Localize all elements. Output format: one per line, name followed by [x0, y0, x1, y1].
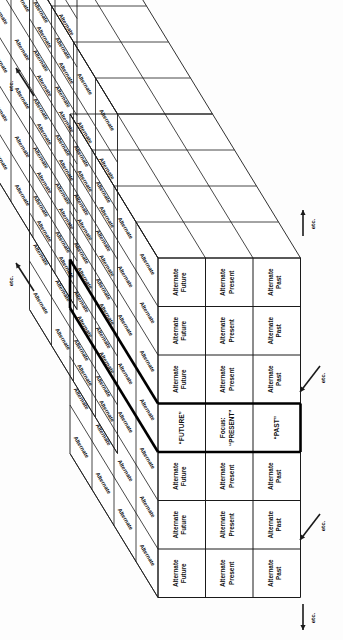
cell-label-line1: Alternate: [219, 268, 226, 296]
cell-label-line1: Alternate: [267, 559, 274, 587]
cell-label-line2: Future: [180, 563, 187, 583]
etc-bottom-right-label: etc.: [309, 612, 316, 623]
cell-label-line2: Present: [228, 318, 235, 342]
cell-label-line1: Alternate: [267, 268, 274, 296]
cell-label-line2: Present: [228, 367, 235, 391]
cell-label-line2: Past: [275, 275, 282, 289]
etc-low-right: etc.: [300, 514, 326, 540]
etc-low-right-label: etc.: [319, 520, 326, 531]
cell-label-line1: Alternate: [219, 365, 226, 393]
cell-label-line1: Alternate: [267, 462, 274, 490]
cell-label-line2: “PAST”: [273, 416, 280, 440]
cell-label-line1: Alternate: [172, 510, 179, 538]
etc-mid-right-label: etc.: [319, 372, 326, 383]
cell-label-line1: Alternate: [172, 268, 179, 296]
alternate-cell[interactable]: AlternatePresent: [219, 365, 235, 393]
cell-label-line2: Past: [275, 469, 282, 483]
cell-label-line2: Future: [180, 320, 187, 340]
cell-label-line2: “PRESENT”: [228, 409, 235, 446]
etc-mid-right: etc.: [300, 366, 326, 392]
alternate-cell[interactable]: AlternatePresent: [219, 559, 235, 587]
etc-top-right-head: [300, 210, 305, 215]
alternate-cell[interactable]: AlternatePresent: [219, 462, 235, 490]
cell-label-line1: Alternate: [172, 559, 179, 587]
cell-label-line1: Alternate: [219, 559, 226, 587]
cell-label-line2: Future: [180, 369, 187, 389]
cell-label-line2: Present: [228, 561, 235, 585]
alternate-cell[interactable]: AlternatePresent: [219, 316, 235, 344]
cell-label-line1: Alternate: [172, 316, 179, 344]
cell-label-line1: Alternate: [172, 365, 179, 393]
cell-label-line2: Past: [275, 323, 282, 337]
etc-top-right: etc.: [300, 210, 316, 236]
isometric-block-diagram: AlternateAlternateAlternateAlternateAlte…: [0, 0, 343, 640]
cell-label-line2: Future: [180, 272, 187, 292]
cell-label-line2: Past: [275, 566, 282, 580]
diagram-canvas: AlternateAlternateAlternateAlternateAlte…: [0, 0, 343, 640]
cell-label-line2: Present: [228, 464, 235, 488]
etc-top-left-label: etc.: [7, 80, 14, 91]
etc-bottom-right-head: [300, 625, 305, 630]
cell-label-line2: Present: [228, 512, 235, 536]
cell-label-line1: Alternate: [267, 365, 274, 393]
cell-label-line2: Present: [228, 270, 235, 294]
cell-label-line1: Alternate: [267, 316, 274, 344]
cell-label-line2: Future: [180, 466, 187, 486]
cell-label-line1: Alternate: [267, 510, 274, 538]
cell-label-line1: Alternate: [219, 462, 226, 490]
cell-label-line1: Alternate: [219, 316, 226, 344]
cell-label-line1: Focus:: [219, 417, 226, 438]
focus-cell[interactable]: “FUTURE”: [178, 411, 185, 444]
alternate-cell[interactable]: AlternatePresent: [219, 510, 235, 538]
alternate-cell[interactable]: AlternatePresent: [219, 268, 235, 296]
cell-label-line2: “FUTURE”: [178, 411, 185, 444]
cell-label-line1: Alternate: [219, 510, 226, 538]
etc-top-right-label: etc.: [309, 218, 316, 229]
etc-bottom-right: etc.: [300, 604, 316, 630]
etc-mid-left-label: etc.: [7, 275, 14, 286]
cell-label-line1: Alternate: [172, 462, 179, 490]
focus-cell[interactable]: “PAST”: [273, 416, 280, 440]
cell-label-line2: Past: [275, 372, 282, 386]
cell-label-line2: Future: [180, 514, 187, 534]
cell-label-line2: Past: [275, 517, 282, 531]
